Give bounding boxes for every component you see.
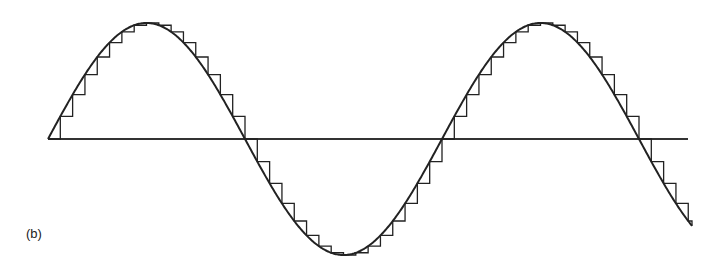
- sine-staircase-figure: [0, 0, 728, 268]
- figure-label: (b): [26, 226, 42, 241]
